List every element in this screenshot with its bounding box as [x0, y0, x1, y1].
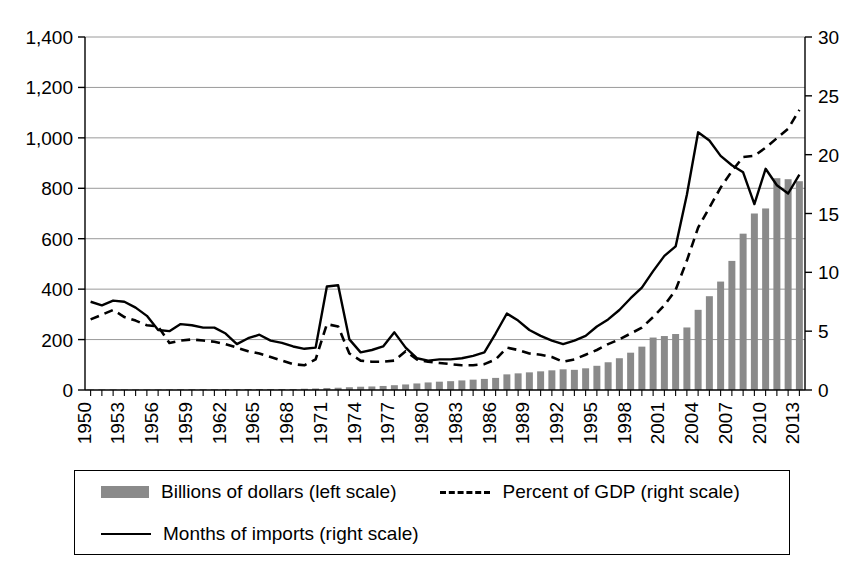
x-tick-label-2007: 2007 — [715, 402, 736, 444]
bar-1981 — [436, 382, 443, 390]
left-tick-label-0: 0 — [62, 380, 73, 401]
legend-label-percent-gdp: Percent of GDP (right scale) — [502, 481, 739, 503]
x-tick-label-1974: 1974 — [344, 402, 365, 445]
bar-1977 — [391, 385, 398, 390]
legend-label-months-imports: Months of imports (right scale) — [163, 523, 419, 545]
bar-1989 — [526, 372, 533, 390]
x-tick-label-2010: 2010 — [749, 402, 770, 444]
chart-legend: Billions of dollars (left scale) Percent… — [74, 470, 790, 555]
bar-1994 — [582, 368, 589, 390]
bar-2011 — [773, 178, 780, 390]
x-tick-label-1953: 1953 — [107, 402, 128, 444]
x-tick-label-1959: 1959 — [175, 402, 196, 444]
bar-1992 — [560, 369, 567, 390]
bar-2009 — [751, 214, 758, 391]
left-tick-label-200: 200 — [41, 330, 73, 351]
bar-1991 — [548, 370, 555, 390]
right-tick-label-30: 30 — [818, 27, 839, 48]
bar-swatch-icon — [101, 486, 149, 498]
left-tick-label-1000: 1,000 — [25, 128, 73, 149]
bar-1986 — [492, 378, 499, 390]
bar-1983 — [458, 380, 465, 390]
left-tick-label-400: 400 — [41, 279, 73, 300]
legend-row-1: Billions of dollars (left scale) Percent… — [75, 471, 789, 513]
bar-2006 — [717, 282, 724, 390]
bar-2002 — [672, 334, 679, 390]
x-tick-label-2013: 2013 — [782, 402, 803, 444]
bar-2013 — [796, 181, 803, 390]
right-tick-label-25: 25 — [818, 86, 839, 107]
x-tick-label-1980: 1980 — [411, 402, 432, 444]
dashed-line-swatch-icon — [440, 491, 490, 494]
bar-1988 — [515, 373, 522, 390]
bar-1987 — [503, 374, 510, 390]
bar-1993 — [571, 370, 578, 390]
x-tick-label-1962: 1962 — [209, 402, 230, 444]
legend-label-billions: Billions of dollars (left scale) — [161, 481, 396, 503]
x-tick-label-1989: 1989 — [512, 402, 533, 444]
x-tick-label-1968: 1968 — [276, 402, 297, 444]
right-tick-label-15: 15 — [818, 204, 839, 225]
chart-canvas: 02004006008001,0001,2001,400051015202530… — [0, 0, 865, 462]
right-tick-label-10: 10 — [818, 262, 839, 283]
legend-row-2: Months of imports (right scale) — [75, 513, 789, 555]
x-tick-label-1950: 1950 — [74, 402, 95, 444]
bar-1995 — [593, 366, 600, 390]
left-tick-label-800: 800 — [41, 178, 73, 199]
bar-2001 — [661, 336, 668, 390]
bar-1990 — [537, 371, 544, 390]
x-tick-label-1986: 1986 — [479, 402, 500, 444]
bar-1979 — [413, 383, 420, 390]
x-tick-label-2001: 2001 — [647, 402, 668, 444]
bar-2008 — [740, 234, 747, 390]
bar-1978 — [402, 384, 409, 390]
x-tick-label-1965: 1965 — [242, 402, 263, 444]
chart-page: 02004006008001,0001,2001,400051015202530… — [0, 0, 865, 572]
bar-2004 — [695, 310, 702, 390]
bar-1985 — [481, 379, 488, 390]
right-tick-label-5: 5 — [818, 321, 829, 342]
x-tick-label-2004: 2004 — [681, 402, 702, 445]
bar-2003 — [683, 327, 690, 390]
x-tick-label-1998: 1998 — [614, 402, 635, 444]
bar-1997 — [616, 358, 623, 390]
solid-line-swatch-icon — [101, 533, 151, 535]
bar-1996 — [605, 362, 612, 390]
right-tick-label-20: 20 — [818, 145, 839, 166]
left-tick-label-1200: 1,200 — [25, 77, 73, 98]
x-tick-label-1971: 1971 — [310, 402, 331, 444]
bar-2000 — [650, 338, 657, 390]
bar-2005 — [706, 296, 713, 390]
bar-2012 — [785, 179, 792, 390]
bar-2010 — [762, 208, 769, 390]
bar-1980 — [425, 382, 432, 390]
x-tick-label-1956: 1956 — [141, 402, 162, 444]
x-tick-label-1983: 1983 — [445, 402, 466, 444]
right-tick-label-0: 0 — [818, 380, 829, 401]
bar-1998 — [627, 353, 634, 390]
left-tick-label-1400: 1,400 — [25, 27, 73, 48]
bar-2007 — [728, 261, 735, 390]
left-tick-label-600: 600 — [41, 229, 73, 250]
bar-1984 — [470, 380, 477, 390]
x-tick-label-1977: 1977 — [377, 402, 398, 444]
reserves-chart: 02004006008001,0001,2001,400051015202530… — [0, 0, 865, 462]
legend-item-months-imports: Months of imports (right scale) — [101, 523, 419, 545]
legend-item-percent-gdp: Percent of GDP (right scale) — [440, 481, 739, 503]
x-tick-label-1992: 1992 — [546, 402, 567, 444]
x-tick-label-1995: 1995 — [580, 402, 601, 444]
legend-item-billions: Billions of dollars (left scale) — [101, 481, 396, 503]
bar-1999 — [638, 347, 645, 390]
bar-1982 — [447, 381, 454, 390]
